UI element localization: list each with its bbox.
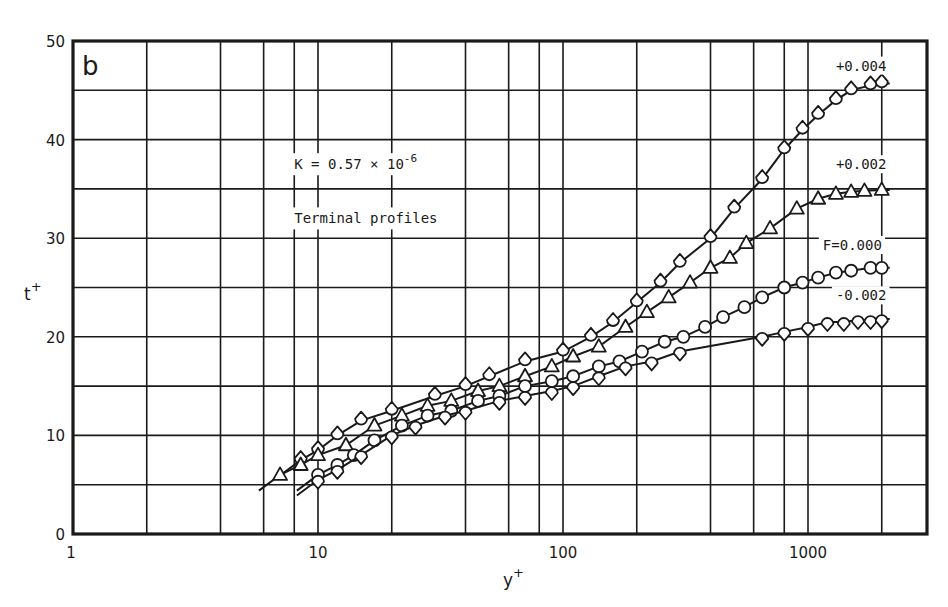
circle-marker [865, 262, 877, 274]
drop-up-marker [519, 352, 531, 365]
circle-marker [567, 370, 579, 382]
circle-marker [876, 262, 888, 274]
drop-down-marker [546, 387, 558, 400]
series-label: F=0.000 [823, 237, 882, 253]
drop-down-marker [838, 318, 850, 331]
series-label: +0.002 [836, 156, 887, 172]
drop-down-marker [519, 392, 531, 405]
x-axis-tick-labels: 1101001000 [66, 544, 827, 562]
drop-up-marker [631, 293, 643, 306]
drop-down-marker [821, 318, 833, 331]
series-0-002: -0.002 [297, 286, 890, 495]
y-tick-label: 20 [46, 329, 65, 347]
circle-marker [738, 301, 750, 313]
drop-up-marker [845, 81, 857, 94]
drop-up-marker [585, 328, 597, 341]
drop-down-marker [493, 397, 505, 410]
drop-down-marker [409, 422, 421, 435]
x-tick-label: 1 [66, 544, 76, 562]
series-line [259, 190, 890, 491]
drop-down-marker [674, 348, 686, 361]
drop-down-marker [802, 323, 814, 336]
drop-down-marker [852, 316, 864, 329]
panel-label: b [82, 51, 99, 81]
drop-up-marker [355, 412, 367, 425]
drop-down-marker [646, 357, 658, 370]
circle-marker [659, 336, 671, 348]
drop-down-marker [593, 372, 605, 385]
drop-up-marker [331, 426, 343, 439]
circle-marker [699, 321, 711, 333]
drop-down-marker [439, 412, 451, 425]
drop-down-marker [876, 315, 888, 328]
drop-down-marker [567, 382, 579, 395]
drop-up-marker [483, 367, 495, 380]
drop-up-marker [812, 106, 824, 119]
circle-marker [593, 360, 605, 372]
circle-marker [778, 282, 790, 294]
circle-marker [546, 375, 558, 387]
x-axis-title: y+ [503, 565, 524, 590]
x-tick-label: 10 [308, 544, 327, 562]
y-tick-label: 0 [55, 526, 65, 544]
triangle-marker [763, 221, 777, 234]
series-f-0-000: F=0.000 [297, 236, 890, 491]
series-0-004: +0.004 [280, 57, 890, 476]
drop-down-marker [355, 451, 367, 464]
drop-up-marker [386, 402, 398, 415]
drop-down-marker [312, 476, 324, 489]
y-axis-tick-labels: 01020304050 [46, 33, 65, 544]
drop-up-marker [830, 91, 842, 104]
drop-up-marker [705, 229, 717, 242]
y-tick-label: 10 [46, 427, 65, 445]
drop-up-marker [797, 121, 809, 134]
drop-up-marker [460, 377, 472, 390]
data-series: +0.004+0.002F=0.000-0.002 [259, 57, 890, 496]
drop-up-marker [654, 274, 666, 287]
circle-marker [717, 311, 729, 323]
drop-down-marker [460, 407, 472, 420]
drop-up-marker [557, 343, 569, 356]
drop-down-marker [756, 333, 768, 346]
annotations: K = 0.57 × 10-6Terminal profiles [288, 152, 448, 229]
circle-marker [812, 272, 824, 284]
triangle-marker [640, 305, 654, 318]
drop-up-marker [607, 313, 619, 326]
series-0-002: +0.002 [259, 155, 890, 490]
circle-marker [519, 380, 531, 392]
drop-up-marker [429, 387, 441, 400]
triangle-marker [339, 438, 353, 451]
y-tick-label: 40 [46, 132, 65, 150]
triangle-marker [662, 290, 676, 303]
x-axis-title-text: y+ [503, 565, 524, 590]
drop-up-marker [778, 140, 790, 153]
chart-figure: 01020304050 1101001000 b t+ y+ K = 0.57 … [0, 0, 948, 607]
y-tick-label: 50 [46, 33, 65, 51]
circle-marker [677, 331, 689, 343]
circle-marker [797, 277, 809, 289]
y-tick-label: 30 [46, 230, 65, 248]
triangle-marker [683, 275, 697, 288]
series-label: -0.002 [836, 287, 887, 303]
drop-down-marker [620, 362, 632, 375]
drop-down-marker [778, 328, 790, 341]
profile-annotation: Terminal profiles [294, 210, 437, 226]
triangle-marker [619, 319, 633, 332]
circle-marker [845, 265, 857, 277]
drop-up-marker [876, 74, 888, 87]
drop-down-marker [386, 431, 398, 444]
drop-up-marker [674, 254, 686, 267]
circle-marker [830, 267, 842, 279]
x-tick-label: 100 [549, 544, 578, 562]
drop-up-marker [728, 200, 740, 213]
y-axis-title-text: t+ [24, 279, 42, 304]
y-axis-title: t+ [24, 279, 42, 304]
series-label: +0.004 [836, 58, 887, 74]
triangle-marker [704, 260, 718, 273]
drop-up-marker [865, 76, 877, 89]
circle-marker [636, 346, 648, 358]
drop-down-marker [865, 316, 877, 329]
drop-down-marker [331, 466, 343, 479]
circle-marker [756, 291, 768, 303]
x-tick-label: 1000 [789, 544, 827, 562]
